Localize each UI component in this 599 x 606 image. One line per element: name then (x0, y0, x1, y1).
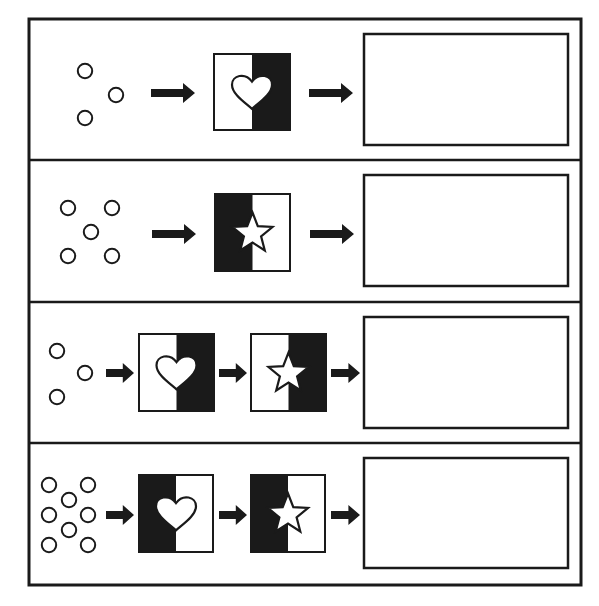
circle-counter-icon (42, 538, 56, 552)
circle-counter-icon (84, 225, 98, 239)
row-3 (50, 317, 568, 428)
input-circles (42, 478, 95, 552)
input-circles (61, 201, 119, 263)
row-4 (42, 458, 568, 568)
row-2 (61, 175, 568, 286)
right-arrow-icon (331, 363, 360, 383)
circle-counter-icon (62, 523, 76, 537)
right-arrow-icon (219, 505, 247, 525)
function-machine-diagram (0, 0, 599, 606)
answer-box[interactable] (364, 34, 568, 145)
star-machine-card (251, 475, 325, 552)
input-circles (50, 344, 92, 404)
circle-counter-icon (42, 508, 56, 522)
right-arrow-icon (309, 83, 353, 103)
circle-counter-icon (62, 493, 76, 507)
circle-counter-icon (81, 478, 95, 492)
circle-counter-icon (78, 111, 92, 125)
circle-counter-icon (105, 249, 119, 263)
star-machine-card (251, 334, 326, 411)
circle-counter-icon (42, 478, 56, 492)
row-1 (78, 34, 568, 145)
circle-counter-icon (105, 201, 119, 215)
circle-counter-icon (109, 88, 123, 102)
right-arrow-icon (106, 363, 134, 383)
circle-counter-icon (61, 249, 75, 263)
circle-counter-icon (81, 508, 95, 522)
right-arrow-icon (106, 505, 134, 525)
heart-machine-card (139, 475, 213, 552)
right-arrow-icon (310, 224, 354, 244)
star-machine-card (215, 194, 290, 271)
answer-box[interactable] (364, 175, 568, 286)
heart-machine-card (139, 334, 214, 411)
circle-counter-icon (78, 366, 92, 380)
circle-counter-icon (81, 538, 95, 552)
circle-counter-icon (50, 344, 64, 358)
answer-box[interactable] (364, 458, 568, 568)
right-arrow-icon (151, 83, 195, 103)
heart-machine-card (214, 54, 290, 130)
right-arrow-icon (152, 224, 196, 244)
circle-counter-icon (61, 201, 75, 215)
input-circles (78, 64, 123, 125)
circle-counter-icon (78, 64, 92, 78)
right-arrow-icon (219, 363, 247, 383)
answer-box[interactable] (364, 317, 568, 428)
right-arrow-icon (331, 505, 360, 525)
circle-counter-icon (50, 390, 64, 404)
